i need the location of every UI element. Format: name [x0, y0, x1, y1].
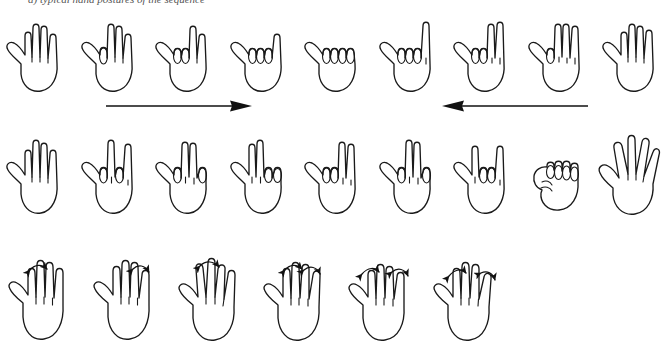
hand-index-middle-ring-extended [522, 12, 597, 94]
hand-pinky-ring-curled [149, 12, 224, 94]
hand-middle-ring-curled [447, 130, 522, 216]
direction-arrow-row [0, 98, 671, 116]
hand-index-ring-curled [75, 130, 150, 216]
hand-spread-arc-middle-ring [170, 253, 255, 343]
hand-ring-pinky-curled [224, 130, 299, 216]
hand-pinky-ring-middle-curled [224, 12, 299, 94]
hand-middle-pinky-curled [149, 130, 224, 216]
finger-flexion-sequence-row [0, 12, 671, 94]
hand-index-extended [373, 12, 448, 94]
hand-all-fingers-curled [298, 12, 373, 94]
hand-index-middle-curled [298, 130, 373, 216]
hand-spread-arc-outer-gaps [340, 253, 425, 343]
hand-index-middle-extended [447, 12, 522, 94]
hand-open-all-extended [0, 130, 75, 216]
hand-index-pinky-curled [373, 130, 448, 216]
arrow-right [104, 98, 254, 114]
individual-finger-combination-row [0, 130, 671, 216]
hand-open-all-extended [0, 12, 75, 94]
caption-clip: a) typical hand postures of the sequence [0, 0, 671, 9]
hand-pinky-curled [75, 12, 150, 94]
hand-open-all-extended-end [596, 12, 671, 94]
hand-gesture-figure: a) typical hand postures of the sequence [0, 0, 671, 346]
hand-spread-arc-pinky-ring [0, 253, 85, 343]
hand-spread-arc-index-middle [85, 253, 170, 343]
hand-spread-arc-two-gaps [255, 253, 340, 343]
hand-open-spread [596, 130, 671, 216]
hand-spread-arc-middle-outer [425, 253, 510, 343]
figure-caption: a) typical hand postures of the sequence [28, 0, 205, 5]
finger-abduction-adduction-row [0, 253, 671, 343]
arrow-left [440, 98, 590, 114]
hand-closed-fist [522, 130, 597, 216]
